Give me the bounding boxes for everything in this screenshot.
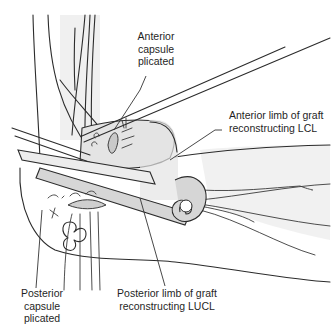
forearm-shading — [200, 145, 330, 240]
label-anterior-capsule-plicated: Anterior capsule plicated — [126, 30, 186, 68]
leader-posterior-capsule — [36, 210, 42, 288]
label-posterior-limb-graft-lucl: Posterior limb of graft reconstructing L… — [117, 287, 217, 312]
capsule-plication-posterior — [68, 200, 106, 209]
label-anterior-limb-graft-lcl: Anterior limb of graft reconstructing LC… — [229, 109, 336, 134]
graft-loop-eye — [180, 200, 192, 212]
suture-threads — [64, 212, 100, 290]
label-posterior-capsule-plicated: Posterior capsule plicated — [12, 287, 72, 325]
ulna-block — [140, 120, 178, 200]
